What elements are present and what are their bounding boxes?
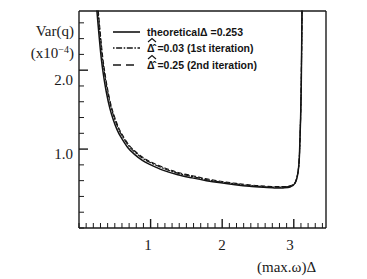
legend-label-second-iteration: Δ̂ =0.25 (2nd iteration) [147, 59, 257, 71]
legend-label-first-iteration: Δ̂ =0.03 (1st iteration) [147, 42, 253, 54]
legend-label-theoretical: theoreticalΔ =0.253 [147, 26, 243, 38]
x-tick-label-2: 2 [218, 237, 226, 253]
y-tick-label-2: 2.0 [54, 72, 73, 88]
y-tick-label-1: 1.0 [54, 146, 73, 162]
chart-svg: Var(q) (x10−4) 2.0 1.0 1 2 3 (max.ω)Δ th… [0, 0, 367, 279]
x-tick-label-3: 3 [286, 237, 294, 253]
x-axis-label: (max.ω)Δ [257, 259, 316, 276]
y-axis-label-prefix: (x10 [31, 45, 59, 62]
y-axis-label-line1: Var(q) [36, 23, 74, 40]
figure-container: Var(q) (x10−4) 2.0 1.0 1 2 3 (max.ω)Δ th… [0, 0, 367, 279]
y-axis-label-exponent: −4 [58, 44, 69, 55]
y-axis-label-suffix: ) [69, 45, 74, 62]
x-tick-label-1: 1 [144, 237, 152, 253]
